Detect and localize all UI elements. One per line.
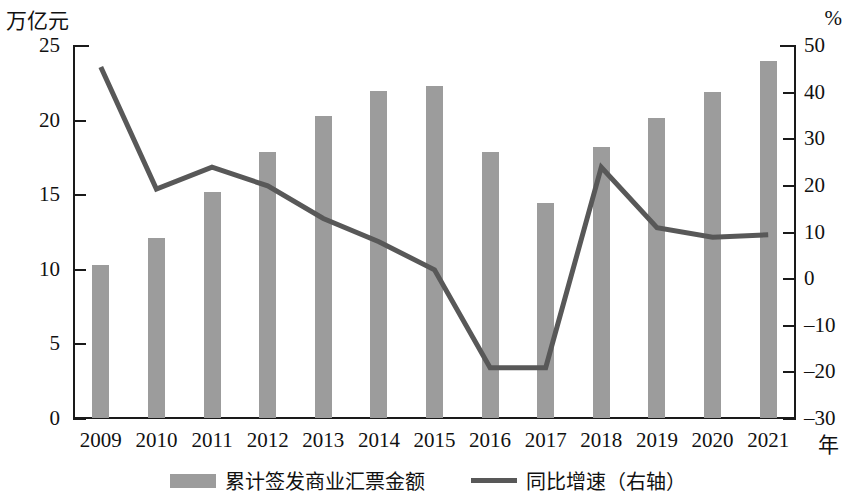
line-swatch-icon bbox=[471, 478, 517, 483]
legend-label-bar: 累计签发商业汇票金额 bbox=[225, 466, 425, 495]
bar-swatch-icon bbox=[170, 474, 216, 488]
growth-rate-line bbox=[101, 67, 768, 368]
legend-item-line: 同比增速（右轴） bbox=[471, 466, 686, 495]
chart-legend: 累计签发商业汇票金额 同比增速（右轴） bbox=[0, 466, 856, 495]
line-series-layer bbox=[0, 0, 856, 498]
legend-item-bar: 累计签发商业汇票金额 bbox=[170, 466, 425, 495]
chart-root: 万亿元 % 0510152025 –30–20–1001020304050 20… bbox=[0, 0, 856, 498]
legend-label-line: 同比增速（右轴） bbox=[526, 466, 686, 495]
